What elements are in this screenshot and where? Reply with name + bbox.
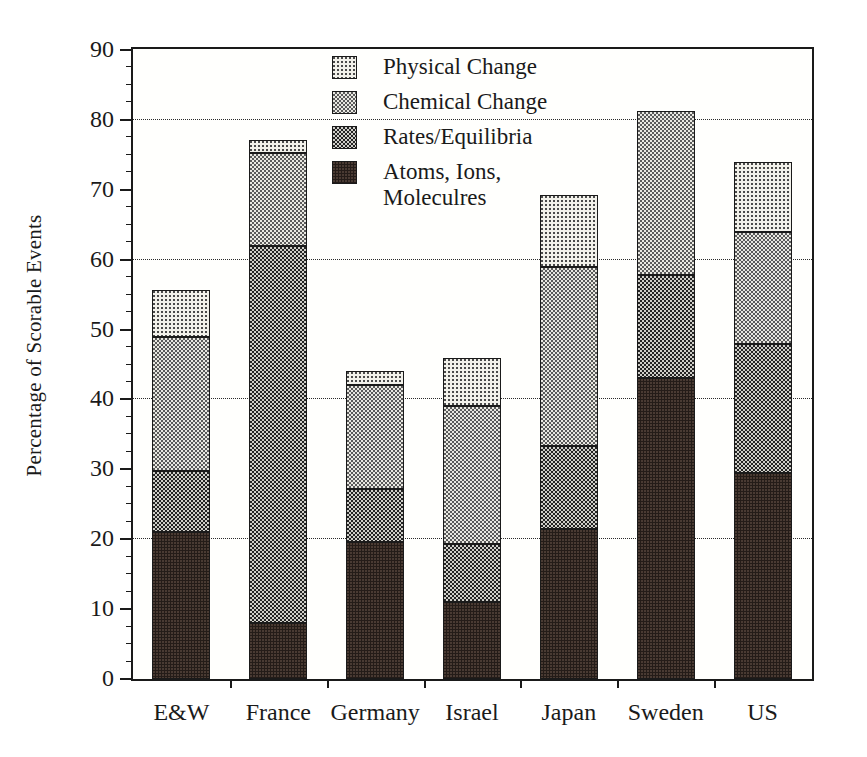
y-axis-title: Percentage of Scorable Events [22, 186, 47, 506]
chart-figure: Percentage of Scorable Events 0102030405… [0, 0, 867, 757]
bar-segment[interactable] [637, 275, 695, 378]
bar-segment[interactable] [443, 406, 501, 544]
bar-segment[interactable] [734, 344, 792, 473]
bar-segment[interactable] [540, 529, 598, 679]
y-tick-major-70 [120, 189, 133, 191]
bar-segment[interactable] [637, 378, 695, 679]
bar-segment[interactable] [443, 602, 501, 679]
bar-segment[interactable] [249, 140, 307, 153]
bar-segment[interactable] [249, 246, 307, 623]
y-tick-major-50 [120, 329, 133, 331]
y-tick-minor [126, 311, 133, 312]
y-tick-major-20 [120, 538, 133, 540]
x-tick-label-france: France [246, 699, 311, 726]
bar-segment[interactable] [152, 290, 210, 337]
y-tick-minor [126, 503, 133, 504]
bar-segment[interactable] [249, 623, 307, 679]
x-tick-label-e-w: E&W [153, 699, 209, 726]
y-tick-major-80 [120, 119, 133, 121]
y-tick-major-40 [120, 398, 133, 400]
y-tick-minor [126, 626, 133, 627]
y-tick-minor [126, 84, 133, 85]
bar-france[interactable] [249, 50, 307, 679]
y-tick-label-70: 70 [90, 175, 114, 202]
bar-sweden[interactable] [637, 50, 695, 679]
y-tick-major-10 [120, 608, 133, 610]
y-tick-minor [126, 276, 133, 277]
y-tick-label-0: 0 [102, 665, 114, 692]
y-tick-label-30: 30 [90, 455, 114, 482]
bar-segment[interactable] [734, 232, 792, 344]
y-tick-minor [126, 591, 133, 592]
y-tick-major-90 [120, 49, 133, 51]
legend-label: Chemical Change [383, 89, 547, 115]
y-tick-minor [126, 171, 133, 172]
legend-swatch-icon [332, 56, 357, 79]
legend-item[interactable]: Rates/Equilibria [332, 124, 622, 150]
bar-segment[interactable] [152, 532, 210, 679]
bar-segment[interactable] [540, 446, 598, 528]
y-tick-minor [126, 573, 133, 574]
y-tick-minor [126, 154, 133, 155]
bar-segment[interactable] [249, 153, 307, 245]
bar-segment[interactable] [152, 471, 210, 533]
y-tick-label-50: 50 [90, 315, 114, 342]
x-tick [230, 679, 232, 688]
legend-label: Rates/Equilibria [383, 124, 532, 150]
legend-label: Atoms, Ions, Moleculres [383, 159, 501, 211]
bar-segment[interactable] [540, 267, 598, 447]
y-tick-minor [126, 556, 133, 557]
bar-segment[interactable] [734, 162, 792, 232]
bar-segment[interactable] [734, 473, 792, 679]
y-tick-minor [126, 294, 133, 295]
legend-item[interactable]: Physical Change [332, 54, 622, 80]
bar-segment[interactable] [443, 358, 501, 407]
y-tick-minor [126, 346, 133, 347]
x-tick [617, 679, 619, 688]
legend-swatch-icon [332, 126, 357, 149]
y-tick-label-20: 20 [90, 525, 114, 552]
x-tick-label-us: US [747, 699, 778, 726]
x-tick-label-sweden: Sweden [628, 699, 704, 726]
y-tick-label-40: 40 [90, 385, 114, 412]
y-tick-minor [126, 101, 133, 102]
bar-segment[interactable] [637, 111, 695, 275]
x-tick-label-japan: Japan [542, 699, 597, 726]
chart-legend: Physical ChangeChemical ChangeRates/Equi… [332, 54, 622, 220]
y-tick-minor [126, 136, 133, 137]
bar-segment[interactable] [346, 489, 404, 542]
x-tick [424, 679, 426, 688]
y-tick-minor [126, 661, 133, 662]
bar-segment[interactable] [346, 385, 404, 488]
y-tick-minor [126, 521, 133, 522]
y-tick-minor [126, 416, 133, 417]
legend-item[interactable]: Chemical Change [332, 89, 622, 115]
y-tick-major-0 [120, 678, 133, 680]
y-tick-minor [126, 224, 133, 225]
bar-segment[interactable] [152, 337, 210, 471]
legend-swatch-icon [332, 161, 357, 184]
bar-e-w[interactable] [152, 50, 210, 679]
y-tick-label-90: 90 [90, 36, 114, 63]
y-tick-minor [126, 381, 133, 382]
y-tick-label-60: 60 [90, 245, 114, 272]
y-tick-major-30 [120, 468, 133, 470]
y-tick-minor [126, 451, 133, 452]
y-tick-minor [126, 364, 133, 365]
y-tick-minor [126, 433, 133, 434]
bar-segment[interactable] [443, 544, 501, 602]
y-tick-major-60 [120, 259, 133, 261]
x-tick [520, 679, 522, 688]
x-tick [327, 679, 329, 688]
x-tick [714, 679, 716, 688]
legend-swatch-icon [332, 91, 357, 114]
y-tick-minor [126, 643, 133, 644]
y-tick-minor [126, 241, 133, 242]
bar-segment[interactable] [346, 371, 404, 386]
legend-item[interactable]: Atoms, Ions, Moleculres [332, 159, 622, 211]
x-tick-label-israel: Israel [445, 699, 498, 726]
bar-segment[interactable] [346, 542, 404, 679]
y-tick-minor [126, 206, 133, 207]
bar-us[interactable] [734, 50, 792, 679]
legend-label: Physical Change [383, 54, 537, 80]
